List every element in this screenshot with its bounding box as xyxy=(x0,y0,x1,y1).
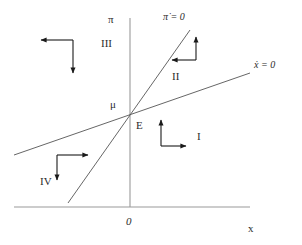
x-dot-nullcline xyxy=(14,73,250,155)
region-i-arrows xyxy=(161,120,186,146)
region-label-iii: III xyxy=(101,38,112,49)
pi-dot-nullcline xyxy=(68,30,190,203)
diagram-canvas xyxy=(0,0,302,245)
region-label-ii: II xyxy=(172,71,179,82)
region-iii-arrows xyxy=(41,40,73,73)
phase-diagram: π x 0 π̇ = 0 ẋ = 0 μ E I II III IV xyxy=(0,0,302,245)
x-axis-label: x xyxy=(248,223,254,234)
mu-label: μ xyxy=(110,99,116,110)
region-ii-arrows xyxy=(172,37,196,60)
region-iv-arrows xyxy=(57,155,88,180)
region-label-iv: IV xyxy=(40,176,52,187)
region-label-i: I xyxy=(197,131,201,142)
x-dot-nullcline-label: ẋ = 0 xyxy=(254,60,275,70)
origin-label: 0 xyxy=(126,216,132,227)
pi-axis-label: π xyxy=(108,14,114,25)
pi-dot-nullcline-label: π̇ = 0 xyxy=(163,12,185,22)
equilibrium-label: E xyxy=(136,120,143,131)
